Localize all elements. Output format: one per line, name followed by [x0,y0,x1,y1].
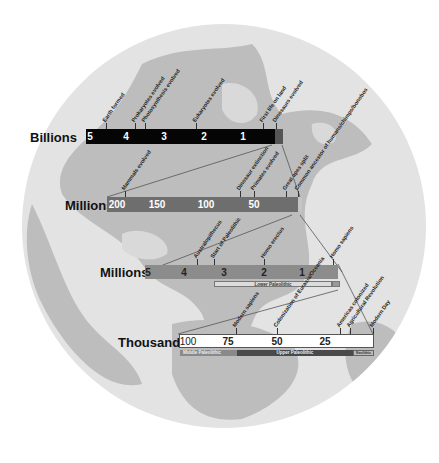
tick-billions-3: 3 [161,132,167,142]
tick-thousands-100: 100 [180,337,197,347]
tick-millions-200: 200 [109,200,126,210]
tick-millions2-4: 4 [181,268,187,278]
timeline-zoom-segment-millions-1 [298,197,302,212]
timeline-zoom-segment-billions [275,129,283,144]
tick-thousands-25: 25 [319,337,330,347]
tick-millions2-3: 3 [221,268,227,278]
period-neolithic: Neolithic [353,350,374,356]
scale-label-thousands: Thousands [118,336,187,349]
globe-background [22,24,426,428]
tick-millions2-2: 2 [261,268,267,278]
tick-billions-1: 1 [240,132,246,142]
tick-millions2-1: 1 [299,268,305,278]
scale-label-billions: Billions [30,131,77,144]
period-upper-paleolithic: Upper Paleolithic [237,350,353,356]
tick-millions-100: 100 [198,200,215,210]
tick-millions2-5: 5 [145,268,151,278]
tick-millions-50: 50 [248,200,259,210]
continents-map [22,24,426,428]
tick-millions-150: 150 [149,200,166,210]
period-lower-paleolithic: Lower Paleolithic [214,281,332,287]
tick-billions-2: 2 [201,132,207,142]
tick-billions-4: 4 [123,132,129,142]
timeline-bar-billions [86,129,275,144]
scale-label-millions-2: Millions [100,266,148,279]
tick-thousands-75: 75 [222,337,233,347]
tick-thousands-50: 50 [271,337,282,347]
period-middle-paleolithic: Middle Paleolithic [180,350,237,356]
period-lower-paleolithic-end [332,281,340,287]
tick-billions-5: 5 [87,132,93,142]
